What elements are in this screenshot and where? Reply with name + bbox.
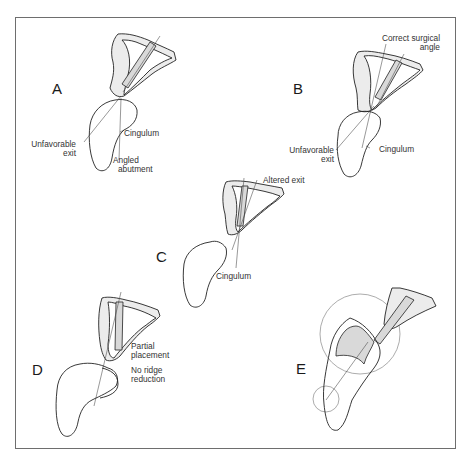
label-a-cingulum: Cingulum [124,129,159,138]
label-line: exit [284,155,334,164]
panel-label-e: E [296,360,306,377]
label-d-no-ridge-reduction: No ridge reduction [131,366,165,384]
label-c-altered-exit: Altered exit [263,176,305,185]
label-line: abutment [113,165,153,174]
implant-d [115,302,123,350]
panel-c-drawing [183,178,284,307]
panel-label-b: B [293,80,303,97]
label-line: placement [131,351,169,360]
crown-b [337,111,380,177]
panel-label-c: C [156,248,167,265]
panel-a-drawing [84,34,176,171]
crown-d [56,363,118,436]
label-line: angle [370,43,440,52]
label-b-unfavorable-exit: Unfavorable exit [284,146,334,164]
label-a-angled-abutment: Angled abutment [113,156,153,174]
panel-e-drawing [313,288,436,430]
label-line: exit [26,149,76,158]
label-b-cingulum: Cingulum [379,145,414,154]
dental-implant-diagram [0,0,469,465]
label-line: reduction [131,375,165,384]
panel-b-drawing [336,44,423,177]
label-b-correct-surgical-angle: Correct surgical angle [370,34,440,52]
rotation-circle-small [313,386,339,412]
label-c-cingulum: Cingulum [216,272,251,281]
panel-label-a: A [52,80,62,97]
panel-label-d: D [32,361,43,378]
label-d-partial-placement: Partial placement [131,342,169,360]
label-a-unfavorable-exit: Unfavorable exit [26,140,76,158]
